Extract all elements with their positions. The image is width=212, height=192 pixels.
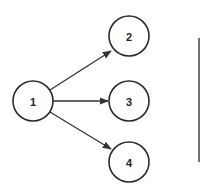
edge-1-to-2: [50, 51, 111, 90]
node-3-label: 3: [126, 96, 132, 108]
edge-1-to-4: [50, 112, 111, 149]
node-2-label: 2: [126, 31, 132, 43]
node-2: 2: [109, 16, 149, 56]
diagram-canvas: 1 2 3 4: [0, 0, 212, 192]
node-4: 4: [109, 142, 149, 182]
node-1-label: 1: [30, 96, 36, 108]
node-3: 3: [109, 81, 149, 121]
node-4-label: 4: [126, 157, 133, 169]
node-1: 1: [13, 81, 53, 121]
